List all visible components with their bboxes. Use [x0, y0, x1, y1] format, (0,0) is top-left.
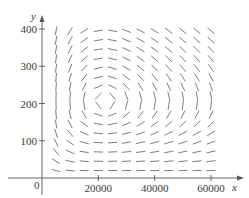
slope-segment	[182, 92, 183, 100]
slope-segment	[108, 30, 116, 31]
slope-segment	[166, 47, 172, 52]
slope-segment	[180, 56, 186, 62]
slope-segment	[137, 132, 145, 135]
slope-segment	[166, 56, 172, 62]
slope-segment	[69, 83, 71, 91]
slope-segment	[179, 151, 187, 153]
y-axis-label: y	[30, 10, 36, 22]
slope-segment	[166, 121, 172, 126]
slope-segment	[108, 142, 116, 143]
slope-segment	[54, 139, 58, 147]
slope-segment	[52, 170, 60, 172]
slope-segment	[209, 74, 213, 81]
slope-segment	[208, 37, 214, 43]
slope-segment	[139, 92, 141, 100]
slope-segment	[168, 101, 169, 109]
slope-segment	[66, 160, 74, 162]
slope-segment	[194, 28, 200, 33]
slope-segment	[137, 122, 144, 126]
slope-segment	[94, 30, 102, 31]
slope-segment	[81, 38, 88, 43]
slope-segment	[94, 49, 102, 50]
slope-segment	[125, 101, 127, 109]
slope-segment	[207, 141, 215, 144]
slope-segment	[168, 92, 170, 100]
slope-segment	[208, 28, 214, 34]
slope-segment	[165, 141, 173, 143]
slope-segment	[195, 83, 198, 91]
slope-segment	[96, 102, 101, 109]
slope-segment	[209, 111, 213, 119]
slope-segment	[122, 142, 130, 143]
slope-segment	[165, 28, 172, 33]
slope-segment	[167, 111, 171, 118]
slope-segment	[194, 65, 199, 72]
slope-segment	[123, 66, 130, 70]
slope-segment	[82, 83, 86, 90]
slope-segment	[55, 129, 57, 137]
slope-segment	[137, 47, 144, 51]
slope-segment	[108, 67, 116, 69]
slope-segment	[136, 151, 144, 152]
x-axis-arrow-icon	[237, 176, 244, 181]
slope-segment	[180, 37, 186, 42]
slope-segment	[68, 55, 71, 63]
slope-segment	[210, 92, 211, 100]
slope-segment	[94, 85, 102, 88]
slope-segment	[151, 29, 158, 34]
slope-segment	[151, 56, 157, 61]
slope-segment	[67, 130, 73, 136]
slope-segment	[154, 92, 156, 100]
slope-segment	[81, 47, 88, 52]
slope-segment	[81, 29, 88, 34]
x-tick-label: 20000	[85, 182, 113, 194]
slope-segment	[94, 58, 102, 60]
direction-field-chart: 200004000060000 100200300400 0 x y	[0, 0, 249, 198]
slope-segment	[80, 151, 88, 152]
slope-segment	[123, 39, 131, 42]
slope-segment	[154, 101, 155, 109]
slope-segment	[196, 101, 197, 109]
slope-segment	[108, 58, 116, 60]
slope-segment	[137, 29, 144, 33]
origin-label: 0	[34, 179, 40, 191]
y-ticks: 100200300400	[21, 23, 46, 147]
slope-segment	[81, 121, 88, 126]
slope-segment	[180, 121, 186, 127]
slope-segment	[165, 151, 173, 152]
slope-segment	[125, 92, 128, 100]
slope-segment	[193, 151, 201, 153]
slope-segment	[208, 46, 214, 52]
slope-segment	[181, 74, 186, 81]
slope-segment	[84, 101, 85, 109]
slope-segment	[137, 56, 144, 61]
slope-segment	[56, 73, 57, 81]
slope-segment	[207, 151, 215, 153]
slope-segment	[70, 101, 71, 109]
slope-segment	[94, 113, 102, 116]
slope-segment	[182, 101, 183, 109]
slope-segment	[109, 85, 117, 89]
slope-segment	[94, 76, 102, 78]
slope-segment	[68, 120, 72, 127]
slope-segment	[53, 159, 60, 164]
slope-segment	[166, 74, 171, 81]
slope-segment	[55, 45, 56, 53]
slope-segment	[53, 149, 58, 155]
slope-segment	[67, 140, 74, 145]
slope-segment	[68, 27, 72, 34]
slope-segment	[69, 111, 71, 119]
slope-segment	[194, 121, 200, 127]
slope-segment	[180, 65, 185, 72]
slope-segment	[56, 64, 57, 72]
slope-segment	[55, 55, 56, 63]
slope-segment	[194, 56, 200, 62]
slope-segment	[69, 64, 72, 72]
slope-segment	[151, 142, 159, 144]
slope-segment	[122, 152, 130, 153]
slope-segment	[123, 122, 131, 125]
slope-segment	[80, 161, 88, 162]
slope-segment	[56, 83, 57, 91]
slope-segment	[122, 132, 130, 134]
slope-segment	[124, 84, 130, 90]
